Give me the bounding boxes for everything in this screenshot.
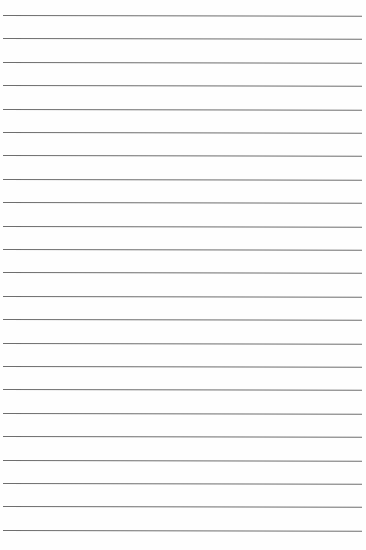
ruled-line bbox=[3, 85, 362, 87]
ruled-line bbox=[3, 132, 362, 134]
ruled-line bbox=[3, 62, 362, 64]
ruled-line bbox=[3, 15, 362, 17]
ruled-line bbox=[3, 202, 362, 204]
ruled-line bbox=[3, 436, 362, 438]
ruled-line bbox=[3, 506, 362, 508]
ruled-line bbox=[3, 296, 362, 298]
ruled-line bbox=[3, 272, 362, 274]
ruled-line bbox=[3, 483, 362, 485]
lined-paper bbox=[0, 0, 366, 550]
ruled-line bbox=[3, 38, 362, 40]
ruled-line bbox=[3, 413, 362, 415]
ruled-line bbox=[3, 179, 362, 181]
ruled-line bbox=[3, 226, 362, 228]
ruled-line bbox=[3, 530, 362, 532]
ruled-line bbox=[3, 249, 362, 251]
ruled-line bbox=[3, 366, 362, 368]
ruled-line bbox=[3, 319, 362, 321]
ruled-line bbox=[3, 389, 362, 391]
ruled-line bbox=[3, 460, 362, 462]
ruled-line bbox=[3, 109, 362, 111]
ruled-line bbox=[3, 155, 362, 157]
ruled-line bbox=[3, 343, 362, 345]
